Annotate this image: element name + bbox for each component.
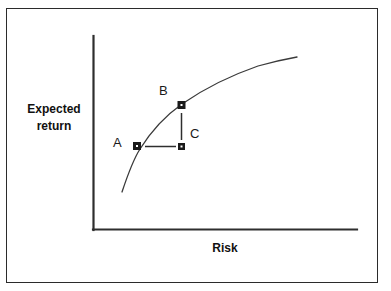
data-point-a-label: A — [113, 136, 122, 149]
data-point-c-label: C — [190, 127, 199, 140]
data-point-c-marker-center — [181, 146, 183, 148]
risk-return-curve — [122, 57, 297, 192]
data-point-a-marker-center — [136, 145, 138, 147]
y-axis-label: Expected return — [18, 101, 90, 135]
data-point-b-label: B — [159, 84, 168, 97]
y-axis-label-line-1: Expected — [18, 101, 90, 118]
figure-screenshot: A B C Expected return Risk — [0, 0, 391, 291]
x-axis-label: Risk — [93, 241, 357, 255]
data-point-b-marker-center — [181, 104, 183, 106]
y-axis-label-line-2: return — [18, 118, 90, 135]
